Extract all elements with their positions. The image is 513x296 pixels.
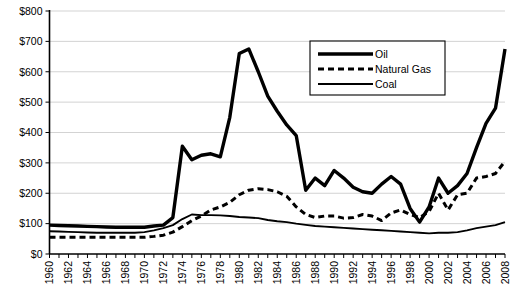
x-tick-label: 1994 <box>366 261 378 285</box>
legend-label-natural-gas: Natural Gas <box>375 63 431 75</box>
x-tick-label: 1960 <box>43 261 55 285</box>
chart-legend: OilNatural GasCoal <box>310 41 445 95</box>
x-tick-label: 2006 <box>480 261 492 285</box>
y-tick-label: $800 <box>19 5 43 17</box>
y-tick-label: $300 <box>19 157 43 169</box>
x-tick-labels: 1960196219641966196819701972197419761978… <box>43 261 511 285</box>
line-chart: $0$100$200$300$400$500$600$700$800 19601… <box>0 0 513 296</box>
y-tick-label: $100 <box>19 217 43 229</box>
y-tick-label: $600 <box>19 66 43 78</box>
x-tick-label: 1984 <box>271 261 283 285</box>
y-tick-label: $500 <box>19 96 43 108</box>
x-tick-label: 1972 <box>157 261 169 285</box>
y-tick-label: $200 <box>19 187 43 199</box>
x-tick-label: 1978 <box>214 261 226 285</box>
y-tick-label: $700 <box>19 35 43 47</box>
x-tick-label: 1962 <box>62 261 74 285</box>
x-tick-label: 1996 <box>385 261 397 285</box>
x-tick-label: 1964 <box>81 261 93 285</box>
x-tick-label: 1986 <box>290 261 302 285</box>
x-tick-label: 1966 <box>100 261 112 285</box>
x-tick-label: 1992 <box>347 261 359 285</box>
x-tick-label: 2000 <box>423 261 435 285</box>
x-tick-label: 1970 <box>138 261 150 285</box>
y-axis <box>46 10 50 254</box>
x-tick-label: 1988 <box>309 261 321 285</box>
legend-label-oil: Oil <box>375 48 388 60</box>
x-tick-label: 1982 <box>252 261 264 285</box>
y-tick-label: $0 <box>31 248 43 260</box>
x-tick-label: 1998 <box>404 261 416 285</box>
y-tick-labels: $0$100$200$300$400$500$600$700$800 <box>19 5 43 260</box>
y-tick-label: $400 <box>19 126 43 138</box>
x-tick-label: 1968 <box>119 261 131 285</box>
x-axis <box>50 254 506 258</box>
x-tick-label: 1990 <box>328 261 340 285</box>
legend-label-coal: Coal <box>375 78 397 90</box>
x-tick-label: 2002 <box>442 261 454 285</box>
x-tick-label: 2008 <box>499 261 511 285</box>
x-tick-label: 2004 <box>461 261 473 285</box>
x-tick-label: 1974 <box>176 261 188 285</box>
x-tick-label: 1980 <box>233 261 245 285</box>
chart-container: $0$100$200$300$400$500$600$700$800 19601… <box>0 0 513 296</box>
x-tick-label: 1976 <box>195 261 207 285</box>
